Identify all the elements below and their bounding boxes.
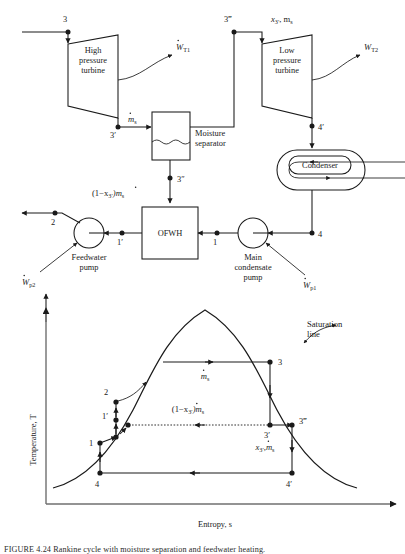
svg-text:(1−x3′)ms: (1−x3′)ms xyxy=(172,404,205,415)
mdot-s-sub: s xyxy=(134,118,137,125)
node-3prime xyxy=(116,125,121,130)
svg-text:x3′,ms: x3′,ms xyxy=(254,442,275,453)
hp-turbine-label-1: High xyxy=(85,46,103,55)
w-t2-arrow xyxy=(312,55,360,80)
mcp-label-2: condensate xyxy=(234,263,271,272)
condenser-label: Condenser xyxy=(302,161,338,170)
main-condensate-pump: Main condensate pump xyxy=(234,218,271,282)
mcp-label-1: Main xyxy=(244,253,262,262)
mdot-s-chart-dot-icon xyxy=(203,369,205,371)
w-p1-label: Wp1 xyxy=(303,278,316,291)
mdot-sep-label: (1−x3′)ms xyxy=(92,186,136,199)
process-hp-expansion xyxy=(267,362,272,428)
w-p1-sub: p1 xyxy=(310,284,316,291)
sp-3tripleprime-label: 3‴ xyxy=(224,15,232,24)
ofwh: OFWH xyxy=(142,207,198,259)
fwp-label-1: Feedwater xyxy=(72,253,107,262)
w-t2-label: WT2 xyxy=(364,42,378,53)
lp-turbine-label-3: turbine xyxy=(275,66,299,75)
moisture-separator: Moisture separator xyxy=(152,112,226,160)
svg-text:ms: ms xyxy=(201,371,210,382)
svg-text:WT2: WT2 xyxy=(364,42,378,53)
w-t1-label: WT1 xyxy=(176,40,190,53)
mdot-s-chart-sub: s xyxy=(207,375,210,382)
lp-turbine: Low pressure turbine xyxy=(262,35,312,118)
feedwater-inlet-line xyxy=(104,231,142,236)
svg-text:x3′, ms: x3′, ms xyxy=(270,14,293,25)
w-p2-dot-icon xyxy=(23,275,25,277)
node-2 xyxy=(53,211,58,216)
saturation-line-annotation: Saturation line xyxy=(304,319,343,343)
y-axis-label: Temperature, T xyxy=(29,414,38,465)
saturation-line-label-2: line xyxy=(307,329,320,339)
mdot-sep-mid: )m xyxy=(112,188,122,198)
sp-4-label: 4 xyxy=(318,230,323,239)
mdot-sep-chart-mid: )m xyxy=(192,404,202,414)
mdot-sep-chart-dot-icon xyxy=(196,403,198,405)
lp-turbine-label-1: Low xyxy=(279,46,295,55)
ts-sp-2-label: 2 xyxy=(104,388,108,397)
quality-mass-label: x3′, ms xyxy=(270,14,293,25)
svg-text:(1−x3′)ms: (1−x3′)ms xyxy=(92,188,125,199)
mdot-s-chart-label: ms xyxy=(201,369,210,382)
sp-1-label: 1 xyxy=(213,238,217,247)
ofwh-label: OFWH xyxy=(158,229,183,238)
quality-chart-mid: ,m xyxy=(264,442,272,452)
mdot-sep-chart-prefix: (1−x xyxy=(172,404,189,414)
sp-4prime-label: 4′ xyxy=(318,123,324,132)
quality-rest: , m xyxy=(279,14,290,24)
moisture-separator-label-2: separator xyxy=(195,139,226,148)
node-1prime xyxy=(120,231,125,236)
hp-turbine-label-3: turbine xyxy=(81,66,105,75)
ts-sp-1prime-label: 1′ xyxy=(102,412,108,421)
quality-chart-label: x3′,ms xyxy=(254,440,275,453)
sp-3doubleprime-label: 3″ xyxy=(177,175,185,184)
hp-turbine: High pressure turbine xyxy=(68,35,118,118)
node-4 xyxy=(310,231,315,236)
hp-inlet-line xyxy=(22,30,71,44)
process-pump2 xyxy=(113,382,146,420)
w-p1-dot-icon xyxy=(304,278,306,280)
sp-3-label: 3 xyxy=(63,15,67,24)
sp-2-label: 2 xyxy=(51,218,55,227)
w-t1-dot-icon xyxy=(177,40,179,42)
sp-3prime-label: 3′ xyxy=(110,131,116,140)
process-drain-dotted xyxy=(125,422,268,427)
w-t1-arrow xyxy=(118,55,172,80)
quality-sub2: s xyxy=(290,18,293,25)
separator-vapour-line xyxy=(190,30,262,128)
feedwater-pump: Feedwater pump xyxy=(72,218,107,272)
quality-chart-dot-icon xyxy=(268,440,270,442)
mdot-sep-sub2: s xyxy=(122,192,125,199)
hp-turbine-label-2: pressure xyxy=(79,56,107,65)
ofwh-inlet-line xyxy=(198,231,238,236)
mdot-sep-chart-label: (1−x3′)ms xyxy=(172,403,205,415)
mcp-label-3: pump xyxy=(243,273,262,282)
w-t2-sub: T2 xyxy=(371,46,378,53)
ts-sp-3prime-label: 3′ xyxy=(264,431,270,440)
mdot-s-hp-label: ms xyxy=(128,112,137,125)
figure-caption: FIGURE 4.24 Rankine cycle with moisture … xyxy=(4,545,265,554)
lp-exit-line xyxy=(310,118,315,148)
moisture-separator-label-1: Moisture xyxy=(195,129,226,138)
w-p2-sub: p2 xyxy=(29,281,35,288)
svg-text:Wp1: Wp1 xyxy=(303,280,316,291)
condenser-outlet-line xyxy=(268,190,315,236)
ts-sp-4prime-label: 4′ xyxy=(286,480,292,489)
process-condensation xyxy=(97,470,292,475)
w-p2-label: Wp2 xyxy=(22,275,35,288)
saturation-line-label-1: Saturation xyxy=(307,319,343,329)
node-3 xyxy=(66,30,71,35)
svg-text:WT1: WT1 xyxy=(176,42,190,53)
x-axis-label: Entropy, s xyxy=(198,520,232,529)
separator-drain-line xyxy=(168,160,173,203)
mdot-sep-chart-sub2: s xyxy=(202,408,205,415)
fwp-label-2: pump xyxy=(79,263,98,272)
mdot-sep-prefix: (1−x xyxy=(92,188,109,198)
condenser: Condenser xyxy=(277,150,405,190)
w-p1-arrow xyxy=(266,243,305,275)
process-boiling xyxy=(163,359,273,364)
svg-text:Wp2: Wp2 xyxy=(22,277,35,288)
mdot-s-dot-icon xyxy=(130,112,132,114)
